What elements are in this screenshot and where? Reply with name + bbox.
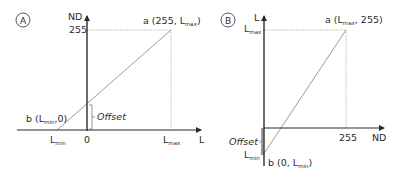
y-tick-lmax: Lmax bbox=[244, 23, 262, 35]
y-tick-255: 255 bbox=[69, 24, 87, 35]
offset-label: Offset bbox=[229, 136, 259, 147]
point-a-label: a (Lmax, 255) bbox=[325, 14, 383, 26]
point-b-label: b (Lmin,0) bbox=[26, 113, 67, 125]
y-axis-label: L bbox=[254, 12, 260, 23]
x-tick-255: 255 bbox=[339, 132, 357, 143]
badge-letter: A bbox=[20, 16, 27, 26]
y-axis-label: ND bbox=[68, 11, 82, 22]
diagram-canvas: A Offset ND 255 L Lmin 0 Lmax a (255, Lm… bbox=[0, 0, 401, 178]
y-tick-lmin: Lmin bbox=[244, 149, 260, 161]
panel-b: B L Lmax Lmin Offset 255 ND a (Lmax, 255… bbox=[221, 12, 386, 169]
badge-letter: B bbox=[225, 16, 231, 26]
panel-a-badge: A bbox=[16, 13, 30, 27]
point-a-label: a (255, Lmax) bbox=[143, 15, 201, 27]
offset-label: Offset bbox=[97, 111, 127, 122]
x-axis-label: L bbox=[199, 134, 205, 145]
offset-bracket bbox=[89, 105, 92, 129]
panel-a: A Offset ND 255 L Lmin 0 Lmax a (255, Lm… bbox=[16, 11, 205, 146]
offset-bar bbox=[261, 128, 264, 155]
x-tick-lmin: Lmin bbox=[50, 134, 66, 146]
panel-b-badge: B bbox=[221, 13, 235, 27]
x-axis-label: ND bbox=[372, 132, 386, 143]
x-tick-zero: 0 bbox=[84, 134, 90, 145]
point-b-label: b (0, Lmin) bbox=[268, 157, 312, 169]
transfer-line bbox=[263, 30, 346, 155]
x-tick-lmax: Lmax bbox=[163, 134, 181, 146]
